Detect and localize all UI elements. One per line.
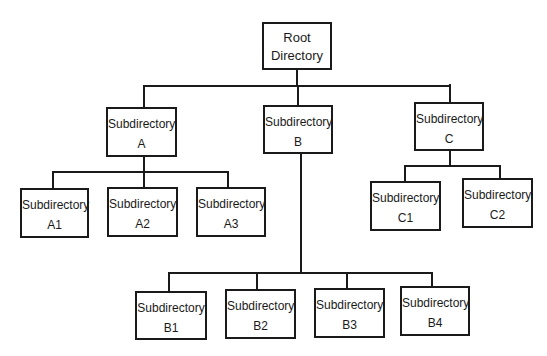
node-label: Subdirectory: [464, 188, 531, 202]
connector-a-bus: [52, 171, 229, 173]
connector-to-a1: [52, 171, 54, 188]
connector-c-bus: [404, 165, 501, 167]
node-label: A: [108, 137, 175, 151]
connector-b-down: [300, 153, 302, 274]
node-label: Subdirectory: [402, 296, 468, 310]
node-label: Subdirectory: [137, 301, 205, 315]
node-subdirectory-a1: Subdirectory A1: [20, 188, 89, 238]
node-label: Subdirectory: [265, 115, 331, 129]
node-subdirectory-a3: Subdirectory A3: [196, 187, 266, 237]
node-label: Subdirectory: [22, 198, 87, 212]
node-label: Subdirectory: [372, 191, 439, 205]
node-label: C2: [464, 208, 531, 222]
node-subdirectory-c2: Subdirectory C2: [462, 178, 533, 228]
node-subdirectory-b3: Subdirectory B3: [314, 288, 385, 338]
node-label: Subdirectory: [198, 197, 264, 211]
node-subdirectory-b: Subdirectory B: [263, 105, 333, 154]
node-subdirectory-b2: Subdirectory B2: [225, 289, 296, 339]
connector-b-bus: [168, 272, 433, 274]
connector-to-a3: [227, 171, 229, 187]
node-root-directory: Root Directory: [262, 22, 332, 70]
connector-to-b4: [431, 272, 433, 286]
node-subdirectory-c: Subdirectory C: [414, 102, 484, 151]
node-label: Root: [264, 31, 330, 45]
node-label: C: [416, 132, 482, 146]
node-label: B3: [316, 318, 383, 332]
node-subdirectory-c1: Subdirectory C1: [370, 181, 441, 231]
node-label: B: [265, 135, 331, 149]
node-label: A3: [198, 217, 264, 231]
node-subdirectory-a: Subdirectory A: [106, 107, 177, 157]
connector-to-c: [449, 84, 451, 102]
node-label: B1: [137, 321, 205, 335]
node-label: C1: [372, 211, 439, 225]
connector-to-c1: [404, 165, 406, 181]
node-label: A2: [109, 217, 176, 231]
node-subdirectory-b4: Subdirectory B4: [400, 286, 470, 336]
connector-to-b1: [168, 272, 170, 291]
node-label: Subdirectory: [416, 112, 482, 126]
node-label: Directory: [264, 49, 330, 63]
node-subdirectory-a2: Subdirectory A2: [107, 187, 178, 237]
connector-to-b3: [346, 272, 348, 288]
node-label: B2: [227, 319, 294, 333]
node-label: Subdirectory: [109, 197, 176, 211]
node-label: B4: [402, 316, 468, 330]
node-label: Subdirectory: [316, 298, 383, 312]
node-label: Subdirectory: [108, 117, 175, 131]
node-subdirectory-b1: Subdirectory B1: [135, 291, 207, 340]
connector-to-c2: [499, 165, 501, 178]
node-label: A1: [22, 218, 87, 232]
connector-to-b2: [256, 272, 258, 289]
connector-to-a: [143, 85, 145, 107]
connector-to-a2: [143, 171, 145, 187]
node-label: Subdirectory: [227, 299, 294, 313]
connector-to-b: [297, 85, 299, 105]
